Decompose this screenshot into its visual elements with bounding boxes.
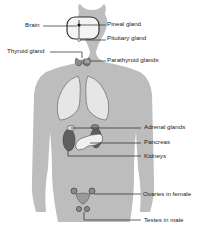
ovary-right [89, 188, 95, 194]
label-thyroid-gland: Thyroid gland [7, 48, 45, 54]
ovary-left [71, 188, 77, 194]
parathyroid-gland-shape [84, 59, 90, 64]
label-parathyroid-glands: Parathyroid glands [107, 57, 159, 63]
label-testes: Testes in male [144, 217, 184, 223]
adrenal-right [91, 125, 99, 130]
testis-left [76, 206, 81, 211]
label-adrenal-glands: Adrenal glands [144, 124, 185, 130]
label-kidneys: Kidneys [144, 153, 166, 159]
label-pituitary-gland: Pituitary gland [107, 35, 146, 41]
label-pineal-gland: Pineal gland [107, 21, 141, 27]
testis-right [84, 206, 89, 211]
pituitary-gland-dot [78, 39, 81, 42]
label-brain: Brain [25, 22, 39, 28]
brain-shape [67, 17, 99, 39]
kidney-left [63, 129, 75, 151]
label-ovaries: Ovaries in female [143, 191, 191, 197]
label-pancreas: Pancreas [144, 139, 170, 145]
